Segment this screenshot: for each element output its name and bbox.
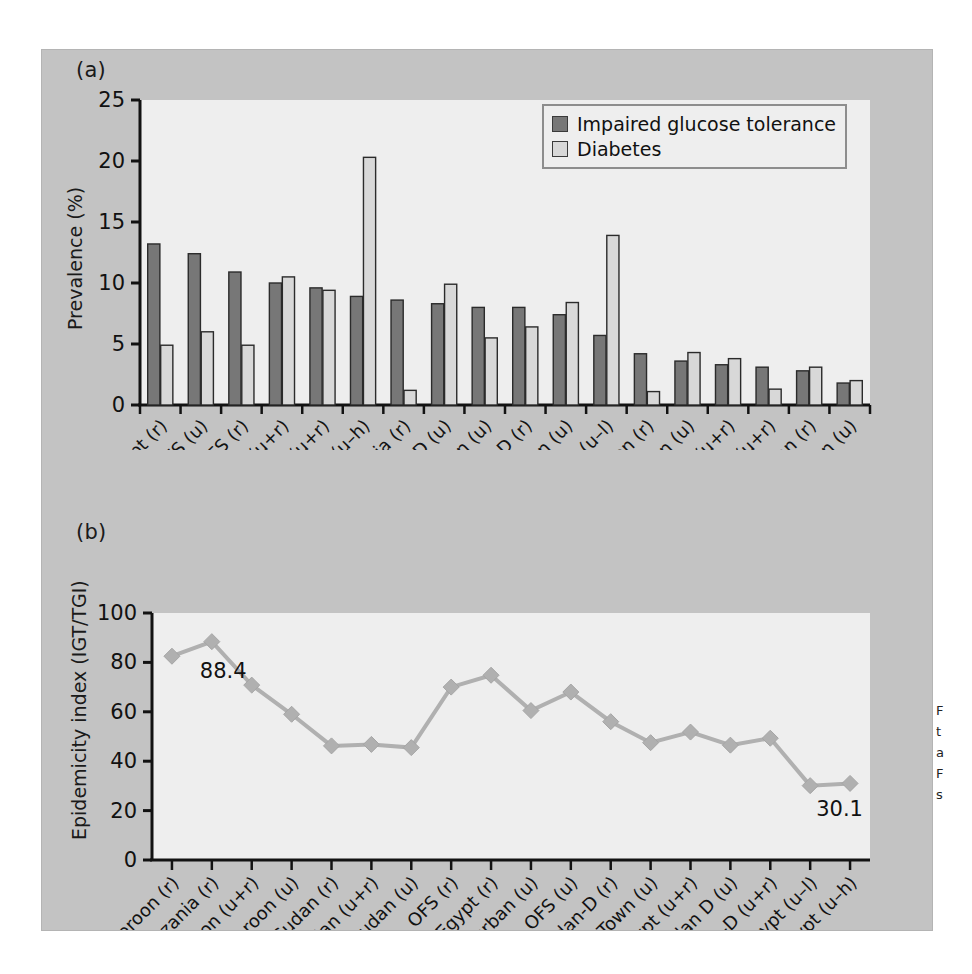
chart-a-bar-igt xyxy=(634,354,646,405)
chart-a-bar-igt xyxy=(837,383,849,405)
chart-b-data-label: 88.4 xyxy=(200,659,247,683)
legend-item-diabetes: Diabetes xyxy=(552,136,836,161)
scanned-figure-panel: (a) Prevalence (%) 0510152025Egypt (r)OF… xyxy=(42,50,932,930)
chart-a-bar-group xyxy=(553,303,578,405)
chart-a-bar-igt xyxy=(310,288,322,405)
caption-line: F xyxy=(936,700,972,721)
chart-a-bar-igt xyxy=(432,304,444,405)
chart-a-bar-group xyxy=(837,381,862,405)
chart-a-bar-group xyxy=(310,288,335,405)
chart-a-bar-diabetes xyxy=(282,277,294,405)
chart-a-bar-diabetes xyxy=(850,381,862,405)
chart-a-bar-diabetes xyxy=(445,284,457,405)
legend-item-igt: Impaired glucose tolerance xyxy=(552,111,836,136)
chart-a-bar-diabetes xyxy=(485,338,497,405)
chart-a-y-tick-label: 25 xyxy=(98,88,125,112)
chart-a-bar-igt xyxy=(594,335,606,405)
chart-a-bar-igt xyxy=(513,307,525,405)
chart-a-bar-diabetes xyxy=(566,303,578,405)
chart-a-bar-diabetes xyxy=(161,345,173,405)
chart-a-bar-igt xyxy=(229,272,241,405)
caption-line: t xyxy=(936,721,972,742)
chart-a-bar-diabetes xyxy=(728,359,740,405)
legend-swatch-diabetes-icon xyxy=(552,141,568,157)
chart-b-y-tick-label: 40 xyxy=(110,749,137,773)
chart-a-bar-group xyxy=(269,277,294,405)
caption-text-sliver: FtaFs xyxy=(936,700,972,805)
chart-a-bar-diabetes xyxy=(769,389,781,405)
chart-b-data-label: 30.1 xyxy=(816,797,863,821)
chart-a-bar-igt xyxy=(350,296,362,405)
chart-a-y-tick-label: 5 xyxy=(112,332,125,356)
chart-a-bar-igt xyxy=(148,244,160,405)
chart-a-bar-diabetes xyxy=(363,157,375,405)
caption-line: F xyxy=(936,763,972,784)
chart-a-bar-diabetes xyxy=(201,332,213,405)
chart-a-bar-igt xyxy=(472,307,484,405)
chart-b-y-tick-label: 0 xyxy=(124,848,137,872)
chart-a-bar-group xyxy=(715,359,740,405)
chart-a-y-tick-label: 0 xyxy=(112,393,125,417)
caption-line: a xyxy=(936,742,972,763)
legend-label-igt: Impaired glucose tolerance xyxy=(577,113,836,135)
chart-b-y-tick-label: 100 xyxy=(97,601,137,625)
legend-label-diabetes: Diabetes xyxy=(577,138,661,160)
chart-a-bar-igt xyxy=(675,361,687,405)
chart-a-bar-diabetes xyxy=(242,345,254,405)
legend-swatch-igt-icon xyxy=(552,116,568,132)
chart-a-bar-diabetes xyxy=(323,290,335,405)
chart-a-bar-igt xyxy=(553,315,565,405)
chart-a-bar-diabetes xyxy=(404,390,416,405)
chart-a-bar-group xyxy=(797,367,822,405)
chart-a-x-tick-label: Egypt (r) xyxy=(100,415,171,450)
chart-a-y-tick-label: 15 xyxy=(98,210,125,234)
chart-a-bar-diabetes xyxy=(647,392,659,405)
chart-a-bar-diabetes xyxy=(810,367,822,405)
chart-a-y-tick-label: 10 xyxy=(98,271,125,295)
chart-a-bar-group xyxy=(675,353,700,405)
caption-line: s xyxy=(936,784,972,805)
chart-b: 020406080100Cameroon (r)Tanzania (r)Came… xyxy=(42,510,932,930)
chart-a-y-tick-label: 20 xyxy=(98,149,125,173)
chart-a-bar-diabetes xyxy=(526,327,538,405)
chart-a-bar-igt xyxy=(715,365,727,405)
chart-a-bar-igt xyxy=(391,300,403,405)
chart-b-y-tick-label: 80 xyxy=(110,650,137,674)
chart-a-bar-diabetes xyxy=(607,235,619,405)
chart-b-y-tick-label: 60 xyxy=(110,700,137,724)
chart-a-legend: Impaired glucose tolerance Diabetes xyxy=(542,104,847,169)
chart-a-bar-igt xyxy=(756,367,768,405)
chart-a-bar-igt xyxy=(797,371,809,405)
chart-b-plot-background xyxy=(152,613,870,860)
chart-a-bar-igt xyxy=(269,283,281,405)
chart-a-bar-igt xyxy=(188,254,200,405)
figure-root: (a) Prevalence (%) 0510152025Egypt (r)OF… xyxy=(0,0,972,974)
chart-a-bar-diabetes xyxy=(688,353,700,405)
chart-b-y-tick-label: 20 xyxy=(110,799,137,823)
